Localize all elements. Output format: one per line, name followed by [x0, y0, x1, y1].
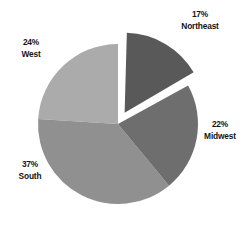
pie-slices: [38, 33, 198, 204]
pie-chart-graphic: [0, 0, 244, 225]
pie-label-northeast-percent: 17%: [163, 8, 237, 20]
pie-label-south: 37% South: [5, 158, 54, 181]
pie-label-west: 24% West: [5, 36, 56, 59]
pie-label-northeast: 17% Northeast: [163, 8, 237, 31]
pie-label-south-percent: 37%: [5, 158, 54, 170]
pie-label-northeast-name: Northeast: [163, 20, 237, 32]
pie-label-midwest-percent: 22%: [199, 118, 241, 130]
pie-label-midwest-name: Midwest: [199, 130, 241, 142]
pie-label-south-name: South: [5, 170, 54, 182]
pie-label-west-percent: 24%: [5, 36, 56, 48]
pie-label-midwest: 22% Midwest: [199, 118, 241, 141]
pie-chart: 17% Northeast 22% Midwest 37% South 24% …: [0, 0, 244, 225]
pie-label-west-name: West: [5, 48, 56, 60]
